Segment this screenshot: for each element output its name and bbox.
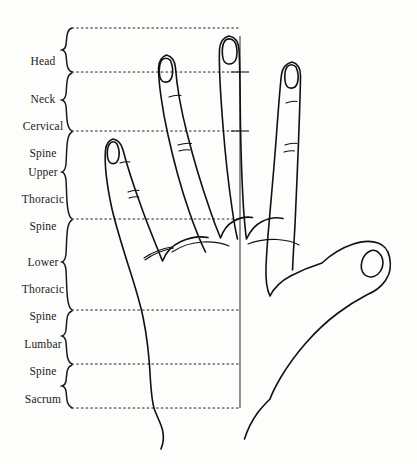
zone-label-head-line-1: Head (8, 55, 78, 69)
finger-crease-marks (120, 95, 299, 260)
zone-label-upper-thoracic-spine: Upper Thoracic Spine (8, 152, 78, 247)
zone-label-lower-line-1: Lower (8, 256, 78, 270)
zone-label-sacrum: Sacrum (8, 379, 78, 420)
crease-ring-distal (286, 101, 297, 103)
zone-label-lower-line-3: Spine (8, 310, 78, 324)
crease-pinky-distal (120, 162, 130, 163)
zone-label-upper-line-3: Spine (8, 220, 78, 234)
fingernail-middle (222, 39, 237, 64)
hand-outline-group (105, 36, 390, 449)
zone-label-lumbar-line-2: Spine (8, 365, 78, 379)
zone-label-neck-line-1: Neck (8, 93, 78, 107)
zone-label-lumbar-line-1: Lumbar (8, 338, 78, 352)
crease-ring-middle (285, 143, 297, 145)
crease-knuckle-b (248, 239, 299, 245)
zone-label-lower-line-2: Thoracic (8, 283, 78, 297)
zone-label-head: Head (8, 41, 78, 82)
zone-label-upper-line-1: Upper (8, 166, 78, 180)
fingernail-ring (285, 65, 298, 88)
zone-label-upper-line-2: Thoracic (8, 193, 78, 207)
fingernail-thumb (361, 250, 383, 277)
crease-pinky-middle (128, 190, 139, 192)
hand-silhouette (105, 36, 390, 449)
zone-label-neck-line-2: Cervical (8, 120, 78, 134)
zone-label-lower-thoracic-spine: Lower Thoracic Spine (8, 242, 78, 337)
crease-knuckle-a (172, 242, 229, 252)
crease-ring-middle2 (284, 151, 295, 152)
zone-division-lines (72, 28, 241, 408)
crease-index-middle2 (179, 150, 190, 151)
fingernail-index (159, 58, 172, 82)
fingernail-pinky (107, 142, 119, 164)
reflexology-hand-diagram: Head Neck Cervical Spine Upper Thoracic … (0, 0, 417, 464)
zone-label-sacrum-line-1: Sacrum (8, 393, 78, 407)
